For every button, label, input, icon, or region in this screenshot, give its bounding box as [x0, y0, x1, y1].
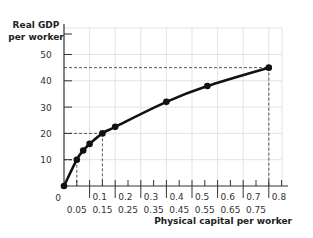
x-tick-label-upper: 0.6 — [221, 192, 236, 202]
y-axis-title-line1: Real GDP — [13, 20, 60, 30]
x-tick-label-lower: 0.65 — [220, 205, 240, 215]
axis-labels: 010203040500.10.20.30.40.50.60.70.80.050… — [8, 20, 292, 226]
x-tick-label-lower: 0.35 — [144, 205, 164, 215]
y-tick-label: 50 — [40, 50, 52, 60]
x-tick-label-upper: 0.8 — [272, 192, 287, 202]
data-point — [61, 183, 68, 190]
x-axis-title: Physical capital per worker — [154, 216, 292, 226]
x-tick-label-upper: 0.1 — [93, 192, 107, 202]
y-tick-label: 30 — [40, 103, 52, 113]
data-point — [80, 147, 87, 154]
x-tick-label-upper: 0.2 — [118, 192, 132, 202]
x-tick-label-lower: 0.75 — [246, 205, 266, 215]
y-tick-label: 10 — [40, 155, 52, 165]
y-tick-label: 40 — [40, 76, 52, 86]
x-tick-label-lower: 0.25 — [118, 205, 138, 215]
x-tick-label-upper: 0.5 — [195, 192, 209, 202]
x-tick-label-lower: 0.15 — [92, 205, 112, 215]
y-axis-title-line2: per worker — [8, 32, 64, 42]
grid — [64, 28, 282, 186]
x-tick-label-lower: 0.55 — [195, 205, 215, 215]
data-point — [204, 83, 211, 90]
y-tick-label: 0 — [55, 193, 61, 203]
x-tick-label-upper: 0.3 — [144, 192, 158, 202]
data-point — [99, 130, 106, 137]
x-tick-label-lower: 0.45 — [169, 205, 189, 215]
data-point — [266, 64, 273, 71]
productivity-chart: 010203040500.10.20.30.40.50.60.70.80.050… — [0, 0, 313, 238]
data-point — [163, 99, 170, 106]
axes — [64, 24, 288, 198]
x-tick-label-upper: 0.7 — [246, 192, 260, 202]
x-tick-label-lower: 0.05 — [67, 205, 87, 215]
data-point — [86, 141, 93, 148]
data-point — [112, 124, 119, 131]
data-point — [74, 156, 81, 163]
x-tick-label-upper: 0.4 — [169, 192, 184, 202]
y-tick-label: 20 — [40, 129, 52, 139]
